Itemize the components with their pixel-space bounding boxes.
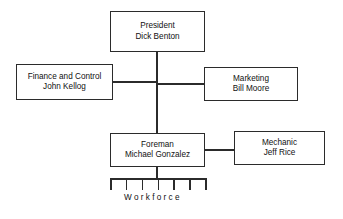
node-president-title: President xyxy=(140,21,175,32)
node-foreman-name: Michael Gonzalez xyxy=(125,150,190,161)
workforce-comb-tooth xyxy=(158,178,160,190)
connector-trunk-to-marketing xyxy=(156,83,204,85)
connector-foreman-to-mechanic xyxy=(205,149,234,151)
node-finance-name: John Kellog xyxy=(43,82,86,93)
workforce-comb-tooth xyxy=(205,178,207,190)
node-marketing[interactable]: Marketing Bill Moore xyxy=(204,67,298,101)
node-president-name: Dick Benton xyxy=(135,32,179,43)
node-foreman[interactable]: Foreman Michael Gonzalez xyxy=(110,133,205,167)
workforce-comb-tooth xyxy=(173,178,175,190)
org-chart: President Dick Benton Finance and Contro… xyxy=(0,0,343,219)
connector-president-to-foreman xyxy=(156,52,158,133)
node-finance-and-control[interactable]: Finance and Control John Kellog xyxy=(16,64,113,100)
node-president[interactable]: President Dick Benton xyxy=(110,11,205,52)
workforce-comb-tooth xyxy=(189,178,191,190)
node-mechanic[interactable]: Mechanic Jeff Rice xyxy=(234,131,325,165)
node-foreman-title: Foreman xyxy=(141,140,174,151)
node-finance-title: Finance and Control xyxy=(28,72,102,83)
node-marketing-title: Marketing xyxy=(233,74,269,85)
workforce-comb-tooth xyxy=(110,178,112,190)
connector-finance-to-trunk xyxy=(113,81,157,83)
workforce-label: Workforce xyxy=(124,193,182,202)
workforce-comb-tooth xyxy=(142,178,144,190)
node-mechanic-title: Mechanic xyxy=(262,138,297,149)
workforce-comb-tooth xyxy=(126,178,128,190)
node-marketing-name: Bill Moore xyxy=(233,84,269,95)
node-mechanic-name: Jeff Rice xyxy=(264,148,296,159)
